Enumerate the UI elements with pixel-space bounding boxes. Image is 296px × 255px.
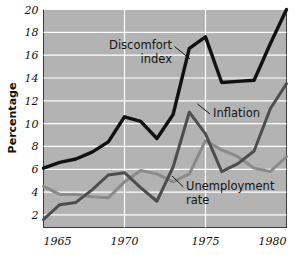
x-tick-label: 1980	[259, 235, 287, 248]
y-tick-label: 12	[25, 95, 39, 108]
discomfort-index-label-line2: index	[141, 52, 173, 66]
chart-page: 2468101214161820 1965197019751980 Percen…	[0, 0, 296, 255]
y-tick-label: 14	[25, 72, 39, 85]
y-tick-label: 6	[32, 163, 39, 176]
unemployment-rate-label-line2: rate	[186, 193, 209, 207]
x-tick-label: 1975	[192, 235, 220, 248]
y-tick-label: 18	[25, 26, 39, 39]
inflation-label: Inflation	[213, 106, 260, 120]
x-tick-label: 1965	[44, 235, 72, 248]
y-axis-title: Percentage	[6, 83, 19, 154]
unemployment-rate-label-line1: Unemployment	[186, 179, 275, 193]
y-tick-label: 8	[32, 140, 39, 153]
discomfort-index-label-line1: Discomfort	[109, 38, 172, 52]
y-tick-label: 16	[25, 49, 39, 62]
y-tick-label: 2	[31, 209, 39, 222]
y-tick-label: 20	[24, 4, 39, 17]
y-tick-label: 10	[25, 118, 39, 131]
y-tick-label: 4	[31, 186, 39, 199]
economic-indicators-line-chart: 2468101214161820 1965197019751980 Percen…	[0, 0, 296, 255]
x-tick-label: 1970	[111, 235, 139, 248]
